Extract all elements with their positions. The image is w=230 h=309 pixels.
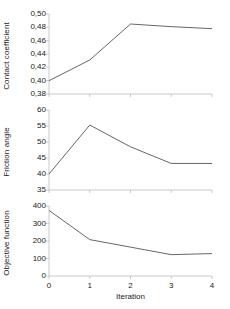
- y-axis-ticks-contact-coefficient: 0,380,400,420,440,460,480,50: [12, 8, 46, 104]
- x-tick-label: 3: [161, 281, 181, 291]
- y-tick-label: 0,44: [12, 50, 46, 58]
- y-tick-label: 100: [12, 255, 46, 263]
- y-tick-label: 400: [12, 202, 46, 210]
- series-objective-function: [49, 200, 212, 286]
- x-tick-label: 4: [202, 281, 222, 291]
- y-axis-ticks-friction-angle: 354045505560: [12, 104, 46, 200]
- data-line: [49, 24, 212, 81]
- y-tick-label: 35: [12, 186, 46, 194]
- y-tick-label: 300: [12, 220, 46, 228]
- y-tick-label: 45: [12, 154, 46, 162]
- x-axis-label: Iteration: [49, 292, 212, 302]
- y-tick-label: 0,38: [12, 90, 46, 98]
- plot-area-contact-coefficient: [49, 8, 212, 104]
- panel-friction-angle: Friction angle 354045505560: [0, 104, 230, 200]
- x-tick-label: 1: [80, 281, 100, 291]
- y-tick-label: 0,42: [12, 63, 46, 71]
- y-tick-label: 55: [12, 122, 46, 130]
- y-axis-ticks-objective-function: 0100200300400: [12, 200, 46, 286]
- plot-area-friction-angle: [49, 104, 212, 200]
- y-tick-label: 50: [12, 138, 46, 146]
- data-line: [49, 125, 212, 174]
- y-tick-label: 0,48: [12, 23, 46, 31]
- x-tick-label: 0: [39, 281, 59, 291]
- y-tick-label: 60: [12, 106, 46, 114]
- series-friction-angle: [49, 104, 212, 200]
- y-tick-label: 0: [12, 272, 46, 280]
- y-tick-label: 0,46: [12, 37, 46, 45]
- plot-area-objective-function: [49, 200, 212, 286]
- series-contact-coefficient: [49, 8, 212, 104]
- y-tick-label: 200: [12, 237, 46, 245]
- panel-contact-coefficient: Contact coefficient 0,380,400,420,440,46…: [0, 8, 230, 104]
- y-tick-label: 0,40: [12, 77, 46, 85]
- panel-objective-function: Objective function 0100200300400: [0, 200, 230, 286]
- y-tick-label: 40: [12, 170, 46, 178]
- data-line: [49, 210, 212, 254]
- y-tick-label: 0,50: [12, 10, 46, 18]
- multi-panel-line-chart: Contact coefficient 0,380,400,420,440,46…: [0, 0, 230, 309]
- x-tick-label: 2: [121, 281, 141, 291]
